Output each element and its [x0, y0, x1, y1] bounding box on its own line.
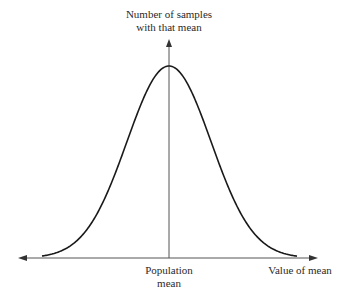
- x-axis-left-arrow-icon: [18, 255, 27, 261]
- population-mean-line2: mean: [139, 277, 199, 290]
- x-axis-right-arrow-icon: [309, 255, 318, 261]
- bell-curve-chart: [0, 0, 340, 299]
- x-axis-label: Value of mean: [260, 264, 340, 277]
- population-mean-line1: Population: [139, 264, 199, 277]
- y-axis-up-arrow-icon: [166, 39, 172, 47]
- population-mean-label: Population mean: [139, 264, 199, 290]
